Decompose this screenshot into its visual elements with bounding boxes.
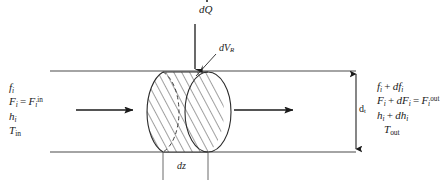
- axial-length-label: dz: [177, 160, 186, 172]
- dt-subscript: t: [364, 107, 366, 114]
- inlet-line-temperature: Tin: [9, 124, 43, 138]
- cylinder-hatching: [136, 64, 238, 160]
- reactor-control-volume-figure: dQ dVR dz dt fi Fi = Fiin hi Tin fi + df…: [0, 0, 445, 186]
- outlet-line-enthalpy: hi + dhi: [377, 109, 439, 123]
- tube-diameter-label: dt: [359, 103, 366, 116]
- outlet-line-flow-rate: Fi + dFi = Fiout: [377, 94, 439, 108]
- heat-input-q-dot: Q: [205, 3, 213, 16]
- outlet-line-temperature: Tout: [377, 123, 439, 137]
- inlet-line-enthalpy: hi: [9, 110, 43, 124]
- inlet-line-flow-rate: Fi = Fiin: [9, 95, 43, 109]
- dvr-subscript: R: [230, 46, 234, 53]
- dz-z: z: [182, 160, 186, 171]
- heat-input-label: dQ: [199, 3, 212, 16]
- volume-element-label: dVR: [219, 42, 234, 55]
- outlet-state-labels: fi + dfi Fi + dFi = Fiout hi + dhi Tout: [377, 80, 439, 138]
- outlet-line-molar-flow: fi + dfi: [377, 80, 439, 94]
- heat-input-q: Q: [205, 3, 213, 15]
- inlet-line-molar-flow: fi: [9, 81, 43, 95]
- differential-volume-element: [136, 64, 238, 160]
- inlet-state-labels: fi Fi = Fiin hi Tin: [9, 81, 43, 139]
